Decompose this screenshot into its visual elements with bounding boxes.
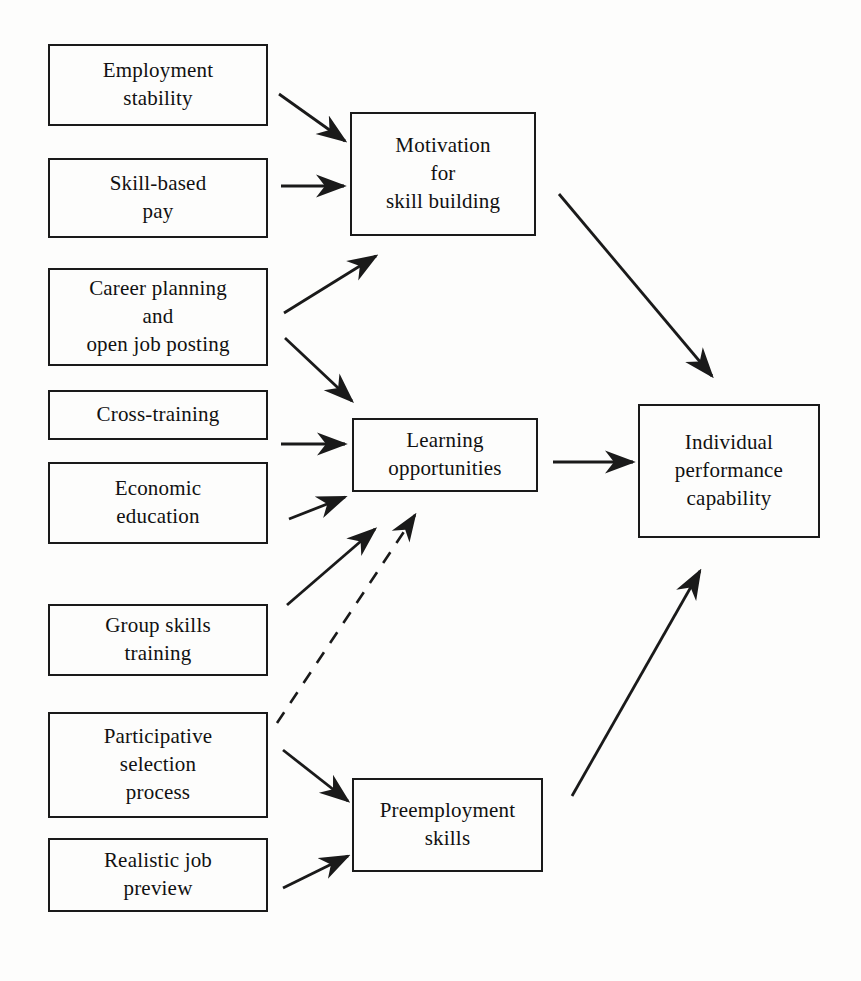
node-label: Participative selection process [98, 723, 219, 806]
edge-motivation-to-individual-performance [559, 194, 712, 376]
node-employment-stability: Employment stability [48, 44, 268, 126]
node-realistic-job-preview: Realistic job preview [48, 838, 268, 912]
node-cross-training: Cross-training [48, 390, 268, 440]
edge-preemployment-to-individual-performance [572, 571, 700, 796]
edge-employment-stability-to-motivation [279, 94, 345, 141]
node-preemployment-skills: Preemployment skills [352, 778, 543, 872]
node-label: Motivation for skill building [380, 132, 506, 215]
node-individual-performance-capability: Individual performance capability [638, 404, 820, 538]
node-participative-selection-process: Participative selection process [48, 712, 268, 818]
node-economic-education: Economic education [48, 462, 268, 544]
node-label: Preemployment skills [374, 797, 522, 852]
node-label: Realistic job preview [98, 847, 218, 902]
node-label: Skill-based pay [104, 170, 213, 225]
edge-realistic-job-preview-to-preemployment [283, 856, 348, 888]
node-label: Economic education [109, 475, 208, 530]
node-label: Individual performance capability [669, 429, 789, 512]
node-group-skills-training: Group skills training [48, 604, 268, 676]
diagram-canvas: Employment stabilitySkill-based payCaree… [0, 0, 861, 981]
edge-group-skills-training-to-learning [287, 529, 375, 605]
edge-economic-education-to-learning [289, 497, 345, 519]
edge-career-planning-to-motivation [284, 256, 376, 313]
node-learning-opportunities: Learning opportunities [352, 418, 538, 492]
edge-career-planning-to-learning [285, 338, 352, 401]
edge-participative-selection-to-preemployment [283, 750, 348, 801]
node-label: Employment stability [97, 57, 220, 112]
node-skill-based-pay: Skill-based pay [48, 158, 268, 238]
edge-participative-selection-to-learning [277, 515, 415, 723]
node-label: Cross-training [91, 401, 226, 429]
node-career-planning-open-job-posting: Career planning and open job posting [48, 268, 268, 366]
node-label: Group skills training [99, 612, 217, 667]
node-label: Learning opportunities [382, 427, 507, 482]
node-label: Career planning and open job posting [80, 275, 235, 358]
node-motivation-for-skill-building: Motivation for skill building [350, 112, 536, 236]
